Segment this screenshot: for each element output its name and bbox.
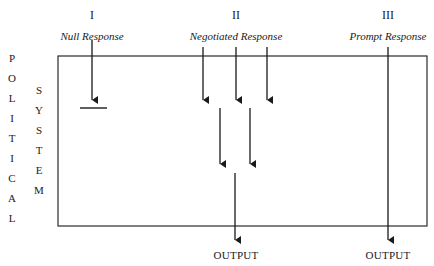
column-label-negotiated-response: Negotiated Response bbox=[190, 30, 283, 42]
letter: S bbox=[36, 124, 42, 136]
letter: Y bbox=[35, 104, 43, 116]
output-label-prompt: OUTPUT bbox=[365, 249, 410, 261]
letter: A bbox=[8, 192, 16, 204]
output-label-negotiated: OUTPUT bbox=[213, 249, 258, 261]
column-numeral-iii: III bbox=[382, 8, 394, 23]
letter: C bbox=[8, 172, 15, 184]
letter: T bbox=[36, 144, 43, 156]
letter: M bbox=[34, 184, 44, 196]
column-numeral-ii: II bbox=[232, 8, 240, 23]
letter: L bbox=[9, 212, 16, 224]
column-numeral-i: I bbox=[90, 8, 94, 23]
letter: I bbox=[10, 112, 14, 124]
column-label-null-response: Null Response bbox=[60, 30, 123, 42]
political-system-box bbox=[58, 56, 427, 226]
letter: O bbox=[8, 72, 16, 84]
letter: P bbox=[9, 52, 15, 64]
letter: L bbox=[9, 92, 16, 104]
letter: E bbox=[36, 164, 43, 176]
letter: T bbox=[9, 132, 16, 144]
letter: I bbox=[10, 152, 14, 164]
column-label-prompt-response: Prompt Response bbox=[350, 30, 427, 42]
letter: S bbox=[36, 84, 42, 96]
